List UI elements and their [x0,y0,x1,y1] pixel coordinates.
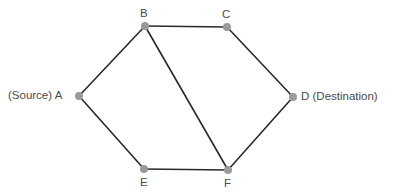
node-label-a: (Source) A [8,90,62,102]
network-graph-diagram: (Source) A B C D (Destination) E F [0,0,393,195]
node-e [140,165,148,173]
node-label-c: C [222,9,230,21]
node-c [223,23,231,31]
edge-c-d [227,27,293,97]
node-label-f: F [224,178,231,190]
node-a [75,92,83,100]
node-f [224,166,232,174]
edges-layer [79,26,293,170]
edge-b-c [145,26,227,27]
edge-a-b [79,26,145,96]
edge-f-d [228,97,293,170]
edge-e-f [144,169,228,170]
node-label-b: B [140,8,148,20]
edge-a-e [79,96,144,169]
edge-b-f [145,26,228,170]
node-d [289,93,297,101]
node-label-e: E [140,177,148,189]
node-b [141,22,149,30]
node-label-d: D (Destination) [301,91,378,103]
